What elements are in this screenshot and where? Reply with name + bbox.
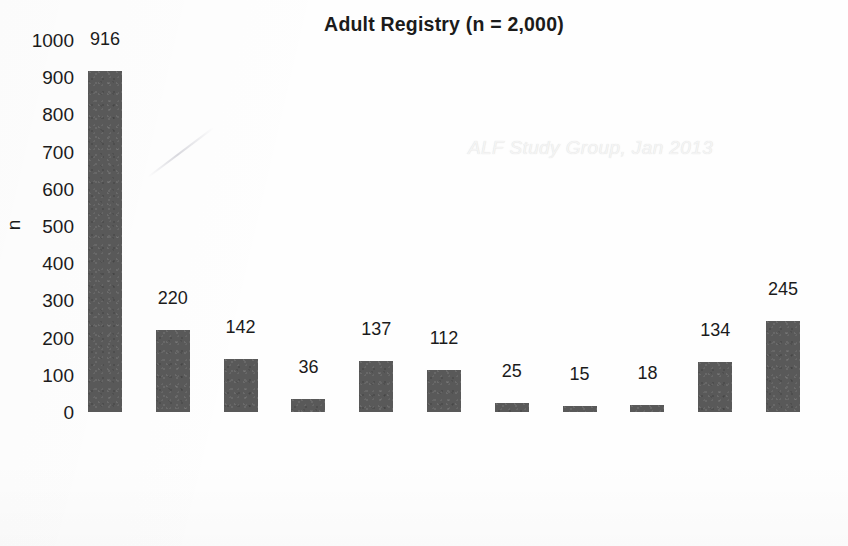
bar[interactable] (563, 406, 597, 412)
y-axis-tick-200: 200 (18, 328, 74, 347)
y-axis-tick-300: 300 (18, 291, 74, 310)
bar[interactable] (359, 361, 393, 412)
chart-title: Adult Registry (n = 2,000) (0, 13, 848, 36)
bar-value-label: 134 (700, 321, 730, 339)
plot-area: 916APAP220Drug142Hep B36Hep A137Autoimm1… (86, 40, 832, 412)
bar[interactable] (291, 399, 325, 412)
bar-value-label: 137 (361, 320, 391, 338)
y-axis-tick-400: 400 (18, 254, 74, 273)
bar[interactable] (698, 362, 732, 412)
bar-value-label: 36 (298, 358, 318, 376)
y-axis-tick-labels: 10009008007006005004003002001000 (18, 40, 74, 412)
bar-value-label: 18 (637, 364, 657, 382)
y-axis-tick-500: 500 (18, 217, 74, 236)
y-axis-tick-600: 600 (18, 179, 74, 198)
bar-value-label: 112 (430, 329, 459, 347)
bar-value-label: 916 (90, 30, 120, 48)
bar[interactable] (630, 405, 664, 412)
y-axis-tick-700: 700 (18, 142, 74, 161)
y-axis-tick-0: 0 (18, 403, 74, 422)
bar[interactable] (88, 71, 122, 412)
bar-value-label: 245 (768, 280, 798, 298)
bar[interactable] (156, 330, 190, 412)
y-axis-tick-800: 800 (18, 105, 74, 124)
bar-value-label: 220 (158, 289, 188, 307)
bar[interactable] (427, 370, 461, 412)
y-axis-tick-100: 100 (18, 365, 74, 384)
chart-canvas: ALF Study Group, Jan 2013 Adult Registry… (0, 0, 848, 546)
y-axis-tick-900: 900 (18, 68, 74, 87)
bar-value-label: 15 (570, 365, 590, 383)
bar-value-label: 25 (502, 362, 522, 380)
bar[interactable] (224, 359, 258, 412)
bar[interactable] (766, 321, 800, 412)
y-axis-tick-1000: 1000 (18, 31, 74, 50)
bar-value-label: 142 (226, 318, 256, 336)
bar[interactable] (495, 403, 529, 412)
